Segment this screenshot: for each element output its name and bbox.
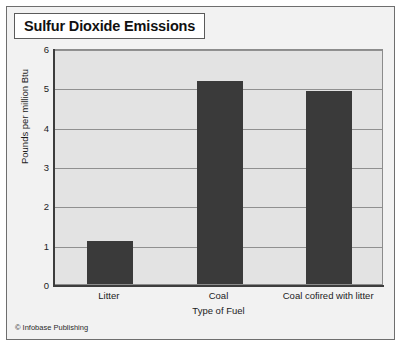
bar xyxy=(87,241,133,284)
x-axis-tick-label: Coal xyxy=(209,290,229,301)
y-axis-tick-label: 3 xyxy=(35,162,49,173)
x-axis-title: Type of Fuel xyxy=(54,305,383,316)
chart-title-box: Sulfur Dioxide Emissions xyxy=(14,13,205,39)
bar xyxy=(197,81,243,284)
x-axis-tick-label: Coal cofired with litter xyxy=(283,290,374,301)
gridline xyxy=(55,50,382,51)
y-axis-tick-label: 1 xyxy=(35,240,49,251)
y-axis-tick-label: 6 xyxy=(35,44,49,55)
plot-area xyxy=(54,49,383,285)
y-axis-tick-label: 2 xyxy=(35,201,49,212)
x-axis-tick-label: Litter xyxy=(98,290,119,301)
y-axis-line xyxy=(53,49,55,286)
page-title: Sulfur Dioxide Emissions xyxy=(24,18,195,34)
bar xyxy=(306,91,352,284)
credit-line: © Infobase Publishing xyxy=(15,323,88,332)
y-axis-tick-label: 4 xyxy=(35,122,49,133)
chart-figure: Sulfur Dioxide Emissions 0123456 Pounds … xyxy=(6,6,395,340)
y-axis-title: Pounds per million Btu xyxy=(19,44,30,189)
y-axis-tick-label: 5 xyxy=(35,83,49,94)
x-axis-line xyxy=(53,285,384,287)
y-axis-tick-label: 0 xyxy=(35,280,49,291)
y-axis-tick-labels: 0123456 xyxy=(35,49,49,285)
